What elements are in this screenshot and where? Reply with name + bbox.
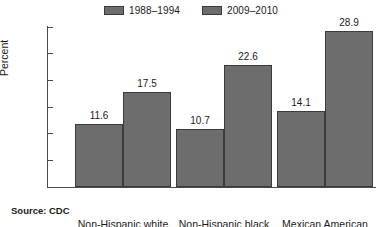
bar-value-mexican-american-1988-1994: 14.1 <box>291 97 310 108</box>
y-tick-mark-25 <box>48 53 53 54</box>
y-tick-mark-10 <box>48 133 53 134</box>
bar-value-mexican-american-2009-2010: 28.9 <box>339 17 358 28</box>
chart-legend: 1988–1994 2009–2010 <box>0 5 382 16</box>
legend-swatch-2009-2010 <box>202 6 222 15</box>
bar-mexican-american-2009-2010 <box>325 31 373 187</box>
bar-value-non-hispanic-black-1988-1994: 10.7 <box>190 115 209 126</box>
bar-non-hispanic-white-2009-2010 <box>123 92 171 187</box>
bar-non-hispanic-black-1988-1994 <box>176 129 224 187</box>
bar-chart-figure: 1988–1994 2009–2010 0 5 10 15 20 25 30 1… <box>0 0 382 227</box>
legend-entry-series-1: 1988–1994 <box>104 5 180 16</box>
bar-value-non-hispanic-white-1988-1994: 11.6 <box>90 110 109 121</box>
plot-area: 0 5 10 15 20 25 30 11.6 17.5 10.7 22.6 1… <box>47 26 376 188</box>
y-tick-mark-0 <box>48 187 53 188</box>
bar-value-non-hispanic-black-2009-2010: 22.6 <box>238 51 257 62</box>
y-tick-mark-20 <box>48 80 53 81</box>
source-note: Source: CDC <box>11 205 70 216</box>
x-axis-line <box>47 187 376 188</box>
y-tick-mark-15 <box>48 107 53 108</box>
x-category-label-non-hispanic-white: Non-Hispanic white <box>78 218 168 227</box>
x-category-label-mexican-american: Mexican American <box>282 218 368 227</box>
bar-mexican-american-1988-1994 <box>277 111 325 187</box>
bar-non-hispanic-black-2009-2010 <box>224 65 272 187</box>
bar-non-hispanic-white-1988-1994 <box>75 124 123 187</box>
legend-label-2009-2010: 2009–2010 <box>227 5 278 16</box>
y-tick-mark-5 <box>48 160 53 161</box>
x-category-label-non-hispanic-black: Non-Hispanic black <box>179 218 269 227</box>
legend-label-1988-1994: 1988–1994 <box>129 5 180 16</box>
bar-value-non-hispanic-white-2009-2010: 17.5 <box>137 78 156 89</box>
y-tick-mark-30 <box>48 27 53 28</box>
legend-entry-series-2: 2009–2010 <box>202 5 278 16</box>
y-axis-title: Percent <box>0 40 10 76</box>
legend-swatch-1988-1994 <box>104 6 124 15</box>
